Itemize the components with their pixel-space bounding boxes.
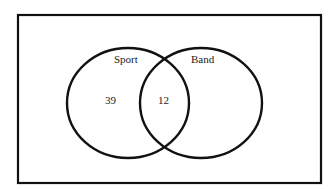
sport-label: Sport	[114, 53, 138, 65]
venn-diagram: Sport Band 39 12	[0, 0, 336, 190]
band-label: Band	[191, 53, 215, 65]
universal-set-rectangle	[18, 15, 321, 183]
intersection-count: 12	[158, 94, 169, 106]
sport-only-count: 39	[105, 94, 117, 106]
